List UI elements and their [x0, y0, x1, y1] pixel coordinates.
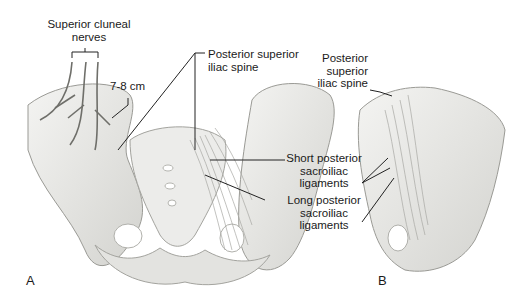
label-line: ligaments	[284, 177, 364, 190]
sacrum	[130, 127, 226, 246]
label-superior-cluneal-nerves: Superior cluneal nerves	[44, 18, 134, 43]
label-line: sacroiliac	[284, 165, 364, 178]
label-short-posterior-sacroiliac-ligaments: Short posterior sacroiliac ligaments	[284, 152, 364, 190]
label-line: Short posterior	[284, 152, 364, 165]
label-line: nerves	[44, 31, 134, 44]
label-line: iliac spine	[208, 61, 299, 74]
label-posterior-superior-iliac-spine-a: Posterior superior iliac spine	[208, 48, 299, 73]
label-posterior-superior-iliac-spine-b: Posterior superior iliac spine	[300, 52, 368, 90]
label-line: Long posterior	[284, 194, 364, 207]
label-line: Superior cluneal	[44, 18, 134, 31]
panel-label-b: B	[378, 275, 387, 288]
pelvis-illustration	[0, 0, 522, 299]
label-line: ligaments	[284, 219, 364, 232]
label-line: sacroiliac	[284, 207, 364, 220]
label-line: Posterior superior	[208, 48, 299, 61]
ilium-b	[358, 87, 505, 271]
label-line: Posterior	[300, 52, 368, 65]
label-distance: 7-8 cm	[110, 80, 145, 93]
label-line: superior	[300, 65, 368, 78]
label-long-posterior-sacroiliac-ligaments: Long posterior sacroiliac ligaments	[284, 194, 364, 232]
label-line: iliac spine	[300, 77, 368, 90]
panel-label-a: A	[26, 275, 35, 288]
